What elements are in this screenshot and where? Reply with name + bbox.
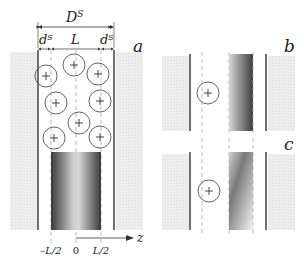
hatched-region-left [10, 52, 37, 230]
label-right-gap: dS [100, 32, 114, 47]
hatched-region-left [162, 154, 189, 230]
hatched-region-right [268, 56, 295, 131]
diagram-canvas: DS dS L dS a z –L/2 0 L/2 b [0, 0, 304, 264]
hatched-region-left [162, 56, 189, 131]
tick-minus-half-l: –L/2 [40, 245, 61, 256]
hatched-region-right [116, 52, 143, 230]
panel-b: b [162, 36, 295, 134]
gradient-slab-b [229, 54, 253, 131]
gradient-slab-c [229, 152, 253, 230]
tick-half-l: L/2 [92, 245, 109, 256]
panel-c: c [162, 134, 295, 233]
gradient-slab-a [51, 152, 101, 230]
particle-center [205, 187, 213, 195]
panel-label-b: b [284, 36, 295, 56]
panel-label-a: a [133, 36, 143, 56]
label-total-width: DS [65, 9, 83, 25]
tick-zero: 0 [73, 245, 79, 256]
z-axis-arrowhead [126, 235, 134, 241]
label-center: L [70, 32, 80, 47]
panel-label-c: c [284, 134, 294, 154]
label-left-gap: dS [39, 32, 53, 47]
z-axis-label: z [136, 231, 144, 245]
panel-a: DS dS L dS a z –L/2 0 L/2 [10, 9, 144, 256]
particle-center [204, 89, 212, 97]
hatched-region-right [268, 154, 295, 230]
